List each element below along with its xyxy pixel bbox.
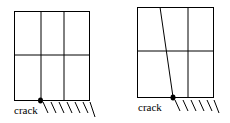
crack-label-before: crack: [14, 104, 38, 116]
crack-label-after: crack: [138, 101, 162, 113]
frame-outline: [138, 8, 214, 98]
diagram-before: [14, 11, 95, 117]
frame-outline: [15, 12, 90, 101]
ground-hatching: [43, 102, 95, 117]
crack-point-icon: [38, 98, 43, 104]
diagram-after: [137, 7, 219, 113]
rotated-column-line: [160, 7, 173, 97]
crack-point-icon: [171, 95, 176, 101]
ground-hatching: [175, 100, 219, 113]
